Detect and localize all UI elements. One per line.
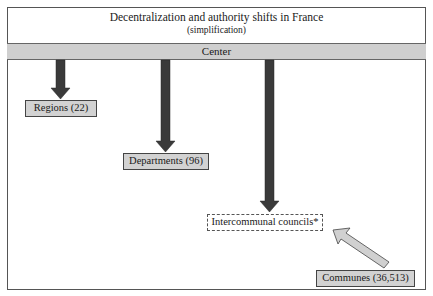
node-communes: Communes (36,513)	[316, 270, 415, 287]
arrow-down-icon	[260, 60, 279, 212]
node-regions: Regions (22)	[25, 100, 97, 117]
arrow-down-icon	[51, 60, 70, 99]
arrows-layer	[0, 0, 433, 296]
arrow-down-icon	[156, 60, 175, 152]
node-intercommunal-councils: Intercommunal councils*	[207, 214, 323, 231]
node-departments: Departments (96)	[123, 153, 209, 170]
arrow-up-left-icon	[333, 228, 389, 268]
